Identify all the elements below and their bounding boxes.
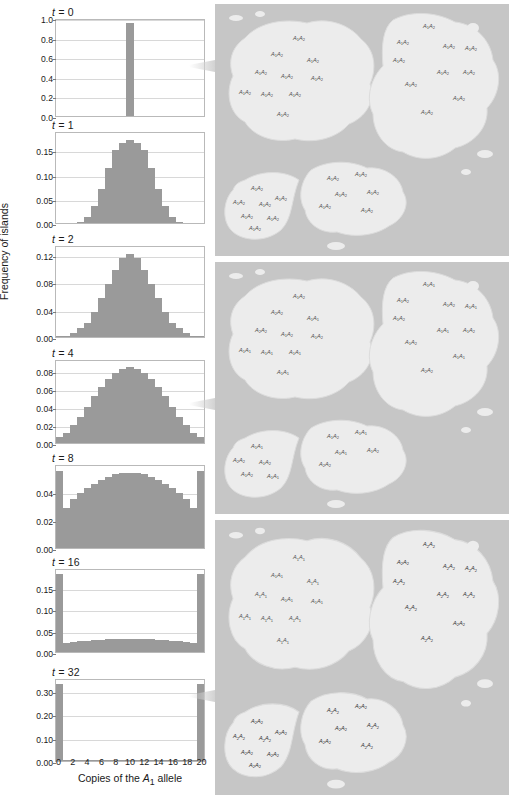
plot-area-t1: 0.000.050.100.15 — [55, 132, 205, 224]
panel-title-t2: t = 2 — [52, 233, 74, 245]
bar — [91, 206, 98, 223]
bar — [84, 641, 91, 652]
bar — [176, 222, 183, 223]
plot-area-t32: 0.000.100.200.30 — [55, 679, 205, 762]
y-tick-label: 0.10 — [36, 172, 53, 182]
y-tick-label: 0.04 — [36, 404, 53, 414]
bar — [183, 425, 190, 443]
bar-series — [56, 361, 204, 443]
bar — [77, 417, 84, 443]
bar — [63, 433, 70, 443]
bar — [56, 336, 63, 337]
bar — [70, 642, 77, 652]
bar — [91, 484, 98, 548]
x-tick-label: 10 — [125, 757, 135, 767]
panel-title-t8: t = 8 — [52, 452, 74, 464]
bar — [141, 639, 148, 652]
panel-title-t4: t = 4 — [52, 347, 74, 359]
bar — [169, 217, 176, 223]
y-tick-label: 0.20 — [36, 711, 53, 721]
y-tick-label: 0.15 — [36, 585, 53, 595]
bar-series — [56, 570, 204, 652]
bar — [84, 407, 91, 443]
bar — [105, 168, 112, 223]
bar — [112, 373, 119, 443]
bar — [91, 396, 98, 443]
y-tick-label: 0.05 — [36, 196, 53, 206]
bar — [197, 471, 204, 548]
bar — [119, 143, 126, 223]
y-tick-label: 0.00 — [36, 758, 53, 768]
y-tick-label: 0.05 — [36, 628, 53, 638]
y-tick-label: 0.00 — [36, 220, 53, 230]
bar — [77, 641, 84, 652]
y-tick-label: 0.08 — [36, 279, 53, 289]
bar — [70, 499, 77, 548]
bar — [70, 425, 77, 443]
y-tick-label: 0.8 — [41, 35, 53, 45]
bar — [70, 333, 77, 337]
panel-title-t32: t = 32 — [52, 666, 80, 678]
bar — [63, 508, 70, 548]
allele-symbol: A — [143, 772, 150, 784]
y-tick-mark — [53, 654, 56, 655]
bar — [134, 258, 141, 337]
y-tick-label: 0.02 — [36, 517, 53, 527]
bar — [155, 189, 162, 223]
islet — [255, 269, 265, 275]
bar — [148, 379, 155, 443]
island-panel-3: A1A1A1A1A1A1A1A1A1A1A1A1A1A1A1A1A1A1A1A1… — [215, 520, 509, 795]
bar — [155, 298, 162, 337]
y-tick-mark — [53, 445, 56, 446]
y-tick-label: 0.00 — [36, 440, 53, 450]
bar — [190, 643, 197, 652]
bar — [126, 473, 133, 548]
bar — [148, 168, 155, 223]
bar — [77, 222, 84, 223]
panel-title-t0: t = 0 — [52, 6, 74, 18]
bar — [105, 639, 112, 652]
bar — [98, 480, 105, 548]
bar — [134, 473, 141, 548]
islet — [229, 532, 243, 539]
bar — [162, 484, 169, 548]
x-tick-labels: 02468101214161820 — [55, 757, 205, 769]
bar — [119, 258, 126, 337]
y-tick-label: 0.2 — [41, 93, 53, 103]
bar — [112, 270, 119, 337]
island-landmass — [301, 420, 406, 493]
x-axis-label-prefix: Copies of the — [78, 772, 143, 784]
plot-area-t8: 0.000.020.04 — [55, 465, 205, 549]
y-tick-label: 0.12 — [36, 252, 53, 262]
bar — [105, 379, 112, 443]
bar — [98, 298, 105, 337]
y-tick-label: 0.6 — [41, 54, 53, 64]
bar — [190, 508, 197, 548]
bar — [169, 641, 176, 652]
y-tick-label: 0.06 — [36, 386, 53, 396]
bar — [119, 473, 126, 548]
y-tick-label: 0.00 — [36, 334, 53, 344]
histogram-column: Frequency of islands t = 00.00.20.40.60.… — [0, 0, 215, 804]
bar — [105, 284, 112, 337]
x-axis-label-suffix: allele — [155, 772, 182, 784]
islet — [461, 169, 471, 175]
bar — [141, 270, 148, 337]
islet — [467, 23, 479, 33]
bar — [141, 373, 148, 443]
bar — [112, 150, 119, 223]
panel-title-t16: t = 16 — [52, 556, 80, 568]
bar-series — [56, 133, 204, 223]
y-tick-label: 0.10 — [36, 606, 53, 616]
islet — [477, 150, 493, 158]
islet — [477, 408, 493, 416]
bar — [126, 367, 133, 443]
y-tick-label: 0.04 — [36, 489, 53, 499]
x-tick-label: 18 — [182, 757, 192, 767]
island-panel-2: A1A2A2A2A1A1A2A2A1A2A1A1A1A1A1A1A1A2A1A1… — [215, 262, 509, 514]
bar — [190, 433, 197, 443]
y-tick-mark — [53, 550, 56, 551]
bar — [56, 684, 63, 761]
islet — [229, 273, 243, 279]
bar — [56, 471, 63, 548]
